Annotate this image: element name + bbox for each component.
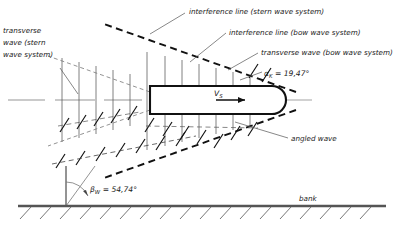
label-transverse-stern-line2: wave (stern: [3, 38, 46, 47]
alpha-value: 19,47°: [284, 69, 310, 78]
label-alpha-angle: αK = 19,47°: [264, 69, 310, 79]
angled-wave-band-guide: [52, 136, 196, 164]
label-bank: bank: [299, 194, 318, 203]
label-beta-angle: βW = 54,74°: [90, 185, 137, 195]
label-transverse-bow: transverse wave (bow wave system): [261, 48, 393, 57]
label-transverse-stern-line3: wave system): [3, 50, 53, 59]
interference-line-stern: [48, 56, 150, 146]
wave-pattern-svg: VS transverse wave (stern wave system) i…: [0, 0, 400, 227]
diagram-root: VS transverse wave (stern wave system) i…: [0, 0, 400, 227]
beta-value: 54,74°: [111, 185, 137, 194]
label-transverse-stern-line1: transverse: [3, 26, 42, 35]
label-interference-stern: interference line (stern wave system): [189, 7, 324, 16]
angled-wave-crests-lower: [56, 132, 185, 168]
label-angled-wave: angled wave: [291, 134, 337, 143]
velocity-subscript: S: [219, 93, 223, 99]
label-interference-bow: interference line (bow wave system): [229, 28, 361, 37]
bank-line-group: [18, 206, 386, 219]
